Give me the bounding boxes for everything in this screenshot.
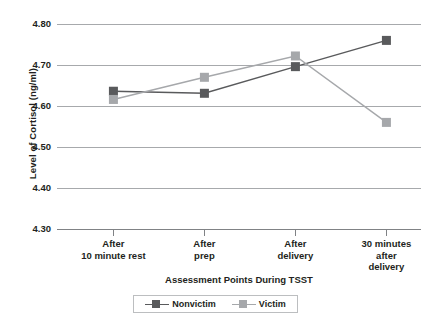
x-tick-label: 30 minutesafterdelivery (331, 238, 431, 273)
plot-area (0, 0, 431, 321)
data-point-marker (291, 51, 300, 60)
series-line-victim (113, 56, 386, 122)
x-tick-label-line: 30 minutes (331, 238, 431, 250)
x-tick-mark (113, 230, 114, 236)
x-tick-mark (386, 230, 387, 236)
legend-marker (239, 300, 247, 308)
x-tick-label-line: delivery (331, 261, 431, 273)
legend-item-nonvictim[interactable]: Nonvictim (145, 299, 216, 309)
legend-swatch-icon (232, 299, 256, 309)
legend-item-victim[interactable]: Victim (232, 299, 286, 309)
data-point-marker (382, 118, 391, 127)
legend-marker (152, 300, 160, 308)
chart-legend: NonvictimVictim (133, 295, 298, 313)
legend-swatch-icon (145, 299, 169, 309)
cortisol-line-chart: Level of Cortisol (ng/ml) 4.804.704.604.… (0, 0, 431, 321)
data-point-marker (200, 73, 209, 82)
legend-label: Nonvictim (172, 299, 216, 309)
data-point-marker (109, 87, 118, 96)
x-tick-label-line: after (331, 250, 431, 262)
x-axis-title: Assessment Points During TSST (57, 274, 421, 285)
x-tick-mark (204, 230, 205, 236)
data-point-marker (200, 89, 209, 98)
x-tick-mark (295, 230, 296, 236)
legend-label: Victim (259, 299, 286, 309)
data-point-marker (109, 95, 118, 104)
data-point-marker (382, 36, 391, 45)
data-point-marker (291, 62, 300, 71)
